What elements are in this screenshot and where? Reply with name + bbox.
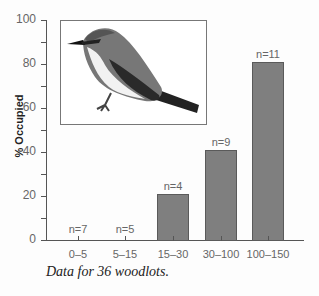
bird-illustration xyxy=(60,20,207,125)
y-tick-label: 0 xyxy=(29,232,36,246)
y-tick xyxy=(41,240,46,241)
y-tick xyxy=(41,130,46,131)
y-tick-label: 80 xyxy=(23,56,36,70)
n-label: n=9 xyxy=(197,136,245,148)
y-tick xyxy=(41,86,46,87)
y-tick xyxy=(41,174,46,175)
chart-caption: Data for 36 woodlots. xyxy=(46,264,169,280)
y-tick-label: 60 xyxy=(23,100,36,114)
x-tick xyxy=(78,236,79,241)
n-label: n=4 xyxy=(149,180,197,192)
y-axis xyxy=(46,20,47,241)
x-category-label: 100–150 xyxy=(244,248,292,260)
y-tick xyxy=(41,42,46,43)
n-label: n=5 xyxy=(101,223,149,235)
n-label: n=11 xyxy=(244,48,292,60)
y-tick xyxy=(41,20,46,21)
x-tick xyxy=(173,236,174,241)
y-tick-label: 100 xyxy=(16,12,36,26)
bar-15-30 xyxy=(157,194,189,241)
bar-100-150 xyxy=(252,62,284,241)
y-tick xyxy=(41,152,46,153)
x-tick xyxy=(268,236,269,241)
y-tick xyxy=(41,64,46,65)
x-category-label: 5–15 xyxy=(101,248,149,260)
y-tick xyxy=(41,196,46,197)
x-category-label: 15–30 xyxy=(149,248,197,260)
x-tick xyxy=(221,236,222,241)
y-tick-label: 40 xyxy=(23,144,36,158)
x-tick xyxy=(125,236,126,241)
y-tick-label: 20 xyxy=(23,188,36,202)
x-category-label: 30–100 xyxy=(197,248,245,260)
bird-icon xyxy=(61,21,206,124)
bar-30-100 xyxy=(205,150,237,241)
n-label: n=7 xyxy=(54,223,102,235)
y-tick xyxy=(41,218,46,219)
y-tick xyxy=(41,108,46,109)
x-category-label: 0–5 xyxy=(54,248,102,260)
